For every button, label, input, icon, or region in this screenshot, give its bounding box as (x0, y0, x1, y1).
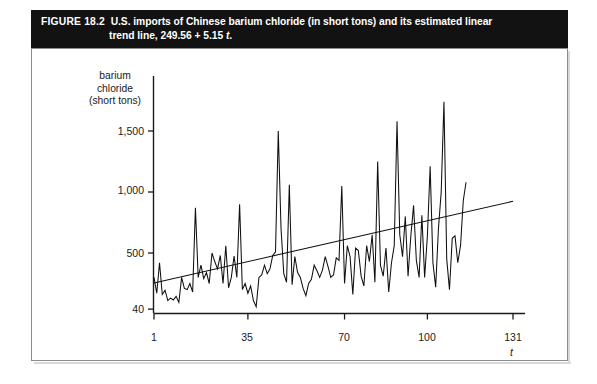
figure-root: FIGURE 18.2 U.S. imports of Chinese bari… (0, 0, 597, 384)
y-axis-title: barium chloride (short tons) (84, 70, 146, 108)
figure-caption-line-1: FIGURE 18.2 U.S. imports of Chinese bari… (41, 15, 560, 29)
x-axis-title: t (510, 346, 513, 358)
figure-caption-line-2: trend line, 249.56 + 5.15 t. (41, 29, 560, 43)
figure-title-banner: FIGURE 18.2 U.S. imports of Chinese bari… (31, 10, 568, 48)
y-axis-title-line-1: barium (84, 70, 146, 83)
y-axis-title-line-3: (short tons) (84, 95, 146, 108)
figure-frame-shadow-right (568, 51, 570, 362)
y-tick-label-1500: 1,500 (96, 125, 144, 137)
x-tick-label-1: 1 (134, 331, 174, 343)
y-tick-label-40: 40 (96, 303, 144, 315)
y-tick-label-500: 500 (96, 247, 144, 259)
x-tick-label-100: 100 (407, 331, 447, 343)
y-tick-label-1000: 1,000 (96, 184, 144, 196)
figure-frame-shadow-bottom (34, 362, 571, 364)
figure-caption-text-1: U.S. imports of Chinese barium chloride … (111, 16, 493, 27)
figure-caption-period: . (229, 30, 232, 41)
x-tick-label-131: 131 (493, 331, 533, 343)
figure-number-label: FIGURE 18.2 (41, 16, 105, 27)
figure-caption-text-2: trend line, 249.56 + 5.15 (109, 30, 226, 41)
y-axis-title-line-2: chloride (84, 83, 146, 96)
x-tick-label-70: 70 (324, 331, 364, 343)
x-tick-label-35: 35 (227, 331, 267, 343)
